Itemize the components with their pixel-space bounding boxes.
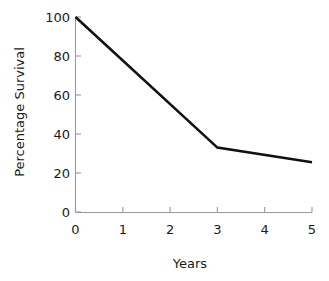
x-tick-label-4: 4 — [261, 222, 269, 237]
y-axis-title: Percentage Survival — [12, 47, 27, 177]
y-tick-label-0: 0 — [62, 205, 70, 220]
x-tick-label-3: 3 — [213, 222, 221, 237]
x-tick-label-2: 2 — [166, 222, 174, 237]
y-tick-label-80: 80 — [53, 49, 70, 64]
x-axis-title: Years — [172, 256, 208, 271]
y-tick-label-60: 60 — [53, 88, 70, 103]
survival-data-line — [76, 17, 313, 162]
x-tick-label-5: 5 — [308, 222, 316, 237]
chart-canvas: 100 80 60 40 20 0 0 1 2 3 4 5 Percentage… — [0, 0, 329, 281]
y-tick-label-100: 100 — [45, 10, 70, 25]
survival-curve-chart: 100 80 60 40 20 0 0 1 2 3 4 5 Percentage… — [0, 0, 329, 281]
x-tick-label-1: 1 — [119, 222, 127, 237]
x-tick-label-0: 0 — [71, 222, 79, 237]
y-tick-label-40: 40 — [53, 127, 70, 142]
y-tick-label-20: 20 — [53, 166, 70, 181]
